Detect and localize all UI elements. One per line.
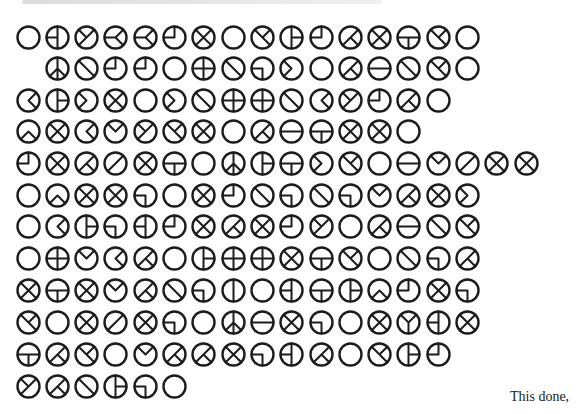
circle-slash-branch-icon: [73, 150, 100, 177]
circle-horizontal-bar-icon: [366, 55, 393, 82]
circle-slash-icon: [102, 150, 129, 177]
circle-cross-icon: [73, 277, 100, 304]
circle-vertical-right-tick-icon: [249, 150, 276, 177]
circle-v-icon: [102, 118, 129, 145]
circle-cross-icon: [132, 309, 159, 336]
circle-quarter-top-left-icon: [395, 277, 422, 304]
empty-circle-icon: [15, 245, 42, 272]
circle-quarter-top-left-icon: [308, 24, 335, 51]
circle-horizontal-bar-icon: [278, 118, 305, 145]
circle-quarter-top-left-icon: [102, 55, 129, 82]
circle-slash-branch-icon: [132, 277, 159, 304]
circle-up-chevron-icon: [366, 277, 393, 304]
circle-cross-icon: [102, 87, 129, 114]
circle-vertical-right-tick-icon: [102, 373, 129, 400]
empty-circle-icon: [190, 150, 217, 177]
circle-horizontal-bar-icon: [395, 150, 422, 177]
empty-circle-icon: [15, 182, 42, 209]
circle-cross-icon: [366, 309, 393, 336]
circle-t-icon: [308, 277, 335, 304]
circle-quarter-bottom-left-icon: [161, 309, 188, 336]
empty-circle-icon: [102, 341, 129, 368]
circle-vertical-right-tick-icon: [395, 341, 422, 368]
empty-circle-icon: [249, 277, 276, 304]
circle-quarter-bottom-left-icon: [190, 277, 217, 304]
circle-right-chevron-icon: [308, 150, 335, 177]
circle-quarter-bottom-left-icon: [308, 309, 335, 336]
circle-vertical-left-tick-icon: [425, 309, 452, 336]
circle-backslash-icon: [278, 87, 305, 114]
circle-cross-icon: [190, 182, 217, 209]
empty-circle-icon: [161, 55, 188, 82]
circle-y-upright-icon: [395, 309, 422, 336]
empty-circle-icon: [15, 213, 42, 240]
circle-up-chevron-icon: [44, 182, 71, 209]
circle-slash-branch-icon: [337, 55, 364, 82]
circle-cross-icon: [44, 118, 71, 145]
circle-backslash-branch-icon: [15, 309, 42, 336]
caption-text: This done,: [510, 389, 569, 405]
circle-t-icon: [161, 150, 188, 177]
circle-quarter-top-left-icon: [161, 213, 188, 240]
circle-cross-icon: [278, 309, 305, 336]
circle-slash-branch-icon: [132, 245, 159, 272]
circle-slash-branch-icon: [220, 213, 247, 240]
empty-circle-icon: [425, 87, 452, 114]
circle-y-icon: [337, 87, 364, 114]
circle-backslash-icon: [161, 277, 188, 304]
circle-cross-icon: [73, 309, 100, 336]
circle-right-chevron-icon: [73, 87, 100, 114]
empty-circle-icon: [15, 24, 42, 51]
circle-cross-icon: [278, 245, 305, 272]
circle-v-icon: [132, 341, 159, 368]
circle-vertical-right-tick-icon: [337, 277, 364, 304]
circle-right-chevron-icon: [278, 55, 305, 82]
circle-peace-icon: [220, 150, 247, 177]
circle-quarter-top-left-icon: [278, 213, 305, 240]
circle-plus-icon: [44, 245, 71, 272]
circle-y-icon: [15, 373, 42, 400]
circle-quarter-bottom-left-icon: [425, 245, 452, 272]
circle-left-chevron-icon: [102, 245, 129, 272]
circle-slash-branch-icon: [337, 24, 364, 51]
empty-circle-icon: [337, 213, 364, 240]
circle-quarter-top-left-icon: [220, 182, 247, 209]
circle-left-chevron-icon: [308, 87, 335, 114]
circle-plus-icon: [249, 245, 276, 272]
circle-v-icon: [425, 150, 452, 177]
circle-cross-icon: [44, 150, 71, 177]
circle-slash-branch-icon: [44, 341, 71, 368]
circle-backslash-branch-icon: [161, 118, 188, 145]
circle-t-icon: [308, 118, 335, 145]
circle-backslash-icon: [220, 55, 247, 82]
circle-plus-icon: [220, 87, 247, 114]
circle-y-icon: [132, 118, 159, 145]
circle-slash-branch-icon: [454, 245, 481, 272]
circle-backslash-branch-icon: [73, 341, 100, 368]
circle-backslash-icon: [308, 182, 335, 209]
circle-y-icon: [73, 24, 100, 51]
empty-circle-icon: [366, 245, 393, 272]
circle-quarter-bottom-left-icon: [132, 182, 159, 209]
circle-cross-icon: [425, 277, 452, 304]
circle-backslash-branch-icon: [425, 55, 452, 82]
circle-cross-icon: [73, 182, 100, 209]
circle-quarter-bottom-left-icon: [278, 182, 305, 209]
circle-cross-icon: [190, 118, 217, 145]
circle-horizontal-bar-icon: [395, 213, 422, 240]
empty-circle-icon: [132, 87, 159, 114]
circle-cross-icon: [190, 24, 217, 51]
empty-circle-icon: [161, 245, 188, 272]
circle-vertical-left-tick-icon: [278, 341, 305, 368]
circle-backslash-icon: [73, 55, 100, 82]
circle-quarter-bottom-left-icon: [249, 341, 276, 368]
circle-cross-icon: [454, 309, 481, 336]
circle-backslash-icon: [73, 373, 100, 400]
empty-circle-icon: [220, 24, 247, 51]
circle-quarter-bottom-left-icon: [249, 55, 276, 82]
circle-t-icon: [308, 245, 335, 272]
circle-quarter-bottom-left-icon: [454, 277, 481, 304]
circle-cross-icon: [483, 150, 510, 177]
circle-quarter-top-left-icon: [425, 341, 452, 368]
circle-slash-branch-icon: [395, 182, 422, 209]
